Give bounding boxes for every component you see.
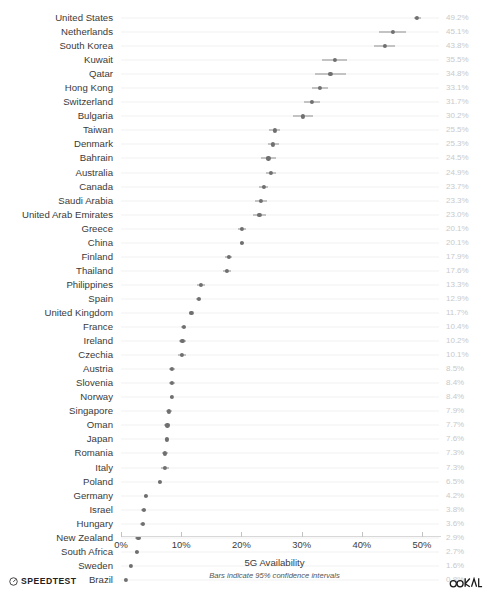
data-point-marker	[197, 297, 201, 301]
chart-row: Italy7.3%	[0, 461, 491, 475]
value-label: 3.8%	[446, 503, 464, 517]
value-label: 4.2%	[446, 489, 464, 503]
value-label: 33.1%	[446, 81, 469, 95]
row-plot	[0, 475, 491, 489]
data-point-marker	[328, 72, 332, 76]
chart-row: China20.1%	[0, 236, 491, 250]
x-axis-title: 5G Availability	[0, 557, 491, 568]
value-label: 34.8%	[446, 67, 469, 81]
value-label: 25.5%	[446, 123, 469, 137]
value-label: 35.5%	[446, 53, 469, 67]
chart-row: Qatar34.8%	[0, 67, 491, 81]
row-plot	[0, 446, 491, 460]
value-label: 11.7%	[446, 306, 468, 320]
row-plot	[0, 137, 491, 151]
value-label: 7.9%	[446, 404, 464, 418]
row-plot	[0, 503, 491, 517]
chart-row: Germany4.2%	[0, 489, 491, 503]
data-point-marker	[142, 508, 146, 512]
row-plot	[0, 404, 491, 418]
data-point-marker	[199, 283, 203, 287]
data-point-marker	[271, 142, 275, 146]
data-point-marker	[257, 213, 261, 217]
value-label: 3.6%	[446, 517, 464, 531]
chart-row: Saudi Arabia23.3%	[0, 194, 491, 208]
value-label: 24.9%	[446, 166, 469, 180]
data-point-marker	[170, 367, 174, 371]
row-plot	[0, 278, 491, 292]
x-axis: 0%10%20%30%40%50%	[0, 536, 491, 558]
data-point-marker	[165, 437, 169, 441]
chart-row: Netherlands45.1%	[0, 25, 491, 39]
x-axis-tick-label: 30%	[292, 539, 311, 550]
data-point-marker	[240, 227, 244, 231]
chart-row: Switzerland31.7%	[0, 95, 491, 109]
row-plot	[0, 222, 491, 236]
data-point-marker	[318, 86, 322, 90]
value-label: 7.3%	[446, 446, 464, 460]
value-label: 7.3%	[446, 461, 464, 475]
value-label: 7.7%	[446, 418, 464, 432]
data-point-marker	[266, 156, 270, 160]
data-point-marker	[310, 100, 314, 104]
row-plot	[0, 432, 491, 446]
value-label: 23.7%	[446, 180, 469, 194]
data-point-marker	[189, 311, 193, 315]
row-plot	[0, 390, 491, 404]
value-label: 24.5%	[446, 151, 469, 165]
value-label: 13.3%	[446, 278, 469, 292]
x-axis-tick	[181, 532, 182, 537]
row-plot	[0, 123, 491, 137]
chart-row: United Arab Emirates23.0%	[0, 208, 491, 222]
value-label: 20.1%	[446, 222, 469, 236]
data-point-marker	[259, 199, 263, 203]
row-plot	[0, 489, 491, 503]
value-label: 17.6%	[446, 264, 469, 278]
data-point-marker	[169, 381, 173, 385]
x-axis-tick-label: 10%	[172, 539, 191, 550]
value-label: 10.4%	[446, 320, 469, 334]
chart-row: Spain12.9%	[0, 292, 491, 306]
chart-row: Norway8.4%	[0, 390, 491, 404]
value-label: 31.7%	[446, 95, 469, 109]
chart-row: Bahrain24.5%	[0, 151, 491, 165]
chart-row: Czechia10.1%	[0, 348, 491, 362]
row-plot	[0, 348, 491, 362]
x-axis-tick	[362, 532, 363, 537]
row-plot	[0, 264, 491, 278]
value-label: 45.1%	[446, 25, 469, 39]
chart-row: Finland17.9%	[0, 250, 491, 264]
speedtest-label: SPEEDTEST	[21, 576, 77, 586]
row-plot	[0, 292, 491, 306]
chart-row: Poland6.5%	[0, 475, 491, 489]
value-label: 43.8%	[446, 39, 469, 53]
data-point-marker	[180, 353, 184, 357]
data-point-marker	[163, 465, 167, 469]
chart-row: Slovenia8.4%	[0, 376, 491, 390]
value-label: 25.3%	[446, 137, 469, 151]
row-plot	[0, 320, 491, 334]
chart-row: United States49.2%	[0, 11, 491, 25]
data-point-marker	[240, 241, 244, 245]
row-plot	[0, 95, 491, 109]
data-point-marker	[227, 255, 231, 259]
x-axis-tick	[121, 532, 122, 537]
data-point-marker	[180, 339, 184, 343]
row-plot	[0, 208, 491, 222]
row-plot	[0, 250, 491, 264]
chart-row: Ireland10.2%	[0, 334, 491, 348]
row-plot	[0, 376, 491, 390]
cropped-chart-title	[0, 0, 491, 4]
value-label: 6.5%	[446, 475, 464, 489]
data-point-marker	[166, 409, 170, 413]
x-axis-tick	[302, 532, 303, 537]
row-plot	[0, 461, 491, 475]
data-point-marker	[163, 451, 167, 455]
x-axis-tick-label: 20%	[232, 539, 251, 550]
chart-rows: United States49.2%Netherlands45.1%South …	[0, 11, 491, 587]
chart-row: South Korea43.8%	[0, 39, 491, 53]
chart-row: Oman7.7%	[0, 418, 491, 432]
chart-row: Denmark25.3%	[0, 137, 491, 151]
value-label: 12.9%	[446, 292, 469, 306]
chart-row: Romania7.3%	[0, 446, 491, 460]
